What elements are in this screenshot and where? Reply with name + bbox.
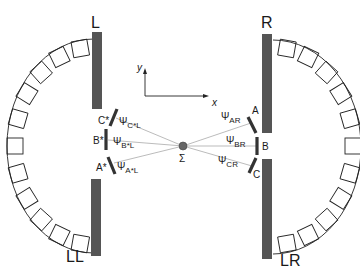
- detector-diagram: L LL R LR y x Σ C* B* A* ΨC*L ΨB*L ΨA*L …: [0, 0, 360, 272]
- right-detector-box: [278, 234, 297, 253]
- segment-A-star: [108, 157, 115, 174]
- right-detector-array: [273, 39, 360, 254]
- psi-CR: ΨCR: [218, 155, 238, 169]
- label-A-star: A*: [96, 162, 107, 173]
- right-detector-box: [297, 224, 318, 245]
- coordinate-axes: y x: [136, 62, 218, 108]
- right-detector-box: [315, 61, 338, 84]
- right-detector-box: [330, 187, 352, 209]
- psi-BR: ΨBR: [226, 135, 246, 149]
- sigma-label: Σ: [179, 153, 185, 164]
- label-LL: LL: [66, 248, 84, 265]
- left-detector-box: [49, 224, 70, 245]
- left-detector-box: [16, 83, 38, 105]
- segment-C-star: [110, 109, 117, 126]
- x-arrow-icon: [203, 94, 209, 98]
- plate-LR: [262, 159, 272, 259]
- y-arrow-icon: [143, 68, 147, 74]
- left-detector-box: [7, 138, 23, 154]
- left-detector-box: [49, 46, 70, 67]
- segment-A: [248, 117, 256, 133]
- right-detector-box: [340, 109, 360, 129]
- label-B: B: [262, 141, 269, 152]
- right-detector-box: [278, 39, 297, 58]
- label-C-star: C*: [98, 115, 109, 126]
- label-LR: LR: [280, 252, 300, 269]
- psi-C-star-L: ΨC*L: [119, 116, 141, 130]
- label-C: C: [253, 169, 260, 180]
- plate-L: [92, 32, 102, 109]
- left-detector-box: [30, 61, 53, 84]
- left-detector-box: [16, 187, 38, 209]
- left-detector-box: [30, 208, 53, 231]
- psi-B-star-L: ΨB*L: [113, 136, 135, 150]
- plate-LL: [91, 179, 101, 256]
- right-detector-box: [315, 208, 338, 231]
- center-dot: [179, 142, 187, 150]
- right-detector-box: [345, 138, 360, 154]
- right-detector-box: [297, 46, 318, 67]
- y-axis-label: y: [136, 62, 143, 73]
- label-R: R: [261, 14, 273, 31]
- psi-A-star-L: ΨA*L: [117, 161, 139, 175]
- psi-AR: ΨAR: [221, 111, 241, 125]
- x-axis-label: x: [211, 97, 218, 108]
- label-A: A: [252, 105, 259, 116]
- label-L: L: [91, 14, 100, 31]
- left-detector-array: [7, 39, 94, 253]
- plate-R: [262, 34, 272, 133]
- label-B-star: B*: [93, 135, 104, 146]
- right-detector-box: [330, 83, 352, 105]
